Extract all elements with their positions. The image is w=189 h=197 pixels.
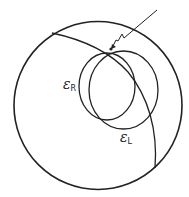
intersection-dot <box>109 47 112 50</box>
locus-circle-r <box>79 53 135 120</box>
epsilon-symbol: ε <box>63 76 71 92</box>
label-epsilon-l: εL <box>120 130 132 146</box>
subscript-l: L <box>128 137 132 146</box>
epsilon-symbol: ε <box>120 129 128 145</box>
locus-circle-l <box>89 51 158 129</box>
diagram-canvas <box>0 0 189 197</box>
outer-circle <box>14 22 182 190</box>
label-epsilon-r: εR <box>63 77 76 93</box>
subscript-r: R <box>71 84 77 93</box>
